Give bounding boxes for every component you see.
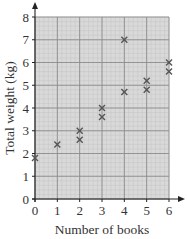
- x-tick-label: 5: [143, 203, 150, 218]
- x-tick-label: 0: [32, 203, 39, 218]
- x-tick-label: 2: [76, 203, 83, 218]
- y-tick-label: 3: [23, 123, 30, 138]
- y-tick-label: 1: [23, 169, 30, 184]
- scatter-chart: 0123456012345678 Number of books Total w…: [0, 0, 187, 239]
- x-tick-label: 4: [121, 203, 128, 218]
- y-tick-label: 2: [23, 146, 30, 161]
- x-tick-label: 6: [166, 203, 173, 218]
- x-axis-label: Number of books: [55, 222, 150, 237]
- y-axis-label: Total weight (kg): [2, 61, 17, 155]
- y-tick-label: 6: [23, 55, 30, 70]
- y-tick-label: 4: [23, 101, 30, 116]
- y-tick-label: 8: [23, 10, 30, 25]
- y-tick-label: 7: [23, 32, 30, 47]
- y-axis-arrow-icon: [32, 2, 38, 9]
- y-tick-label: 5: [23, 78, 30, 93]
- y-tick-label: 0: [23, 192, 30, 207]
- x-tick-label: 3: [99, 203, 106, 218]
- x-axis-arrow-icon: [178, 196, 185, 202]
- x-tick-label: 1: [54, 203, 61, 218]
